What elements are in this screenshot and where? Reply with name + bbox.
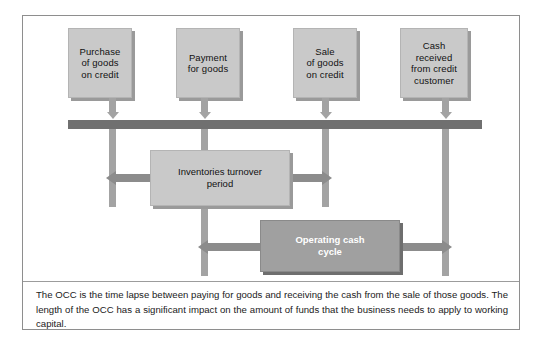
timeline-bar bbox=[68, 120, 482, 129]
down-arrow-shaft-sale bbox=[322, 98, 329, 113]
span-arrow-head-left-occ bbox=[198, 240, 208, 254]
event-box-cash-received: Cashreceivedfrom creditcustomer bbox=[400, 28, 468, 98]
down-arrow-head-sale bbox=[320, 112, 332, 119]
event-box-sale: Saleof goodson credit bbox=[293, 28, 357, 98]
down-arrow-head-payment bbox=[199, 112, 211, 119]
event-box-sale-label: Saleof goodson credit bbox=[303, 46, 346, 81]
figure-caption: The OCC is the time lapse between paying… bbox=[36, 288, 508, 332]
down-arrow-head-purchase bbox=[107, 112, 119, 119]
span-arrow-head-left-inventories bbox=[106, 171, 116, 185]
figure-root: Purchaseof goodson credit Paymentfor goo… bbox=[0, 0, 543, 339]
event-box-payment-label: Paymentfor goods bbox=[185, 52, 232, 75]
event-box-purchase-label: Purchaseof goodson credit bbox=[77, 46, 124, 81]
connector-line-cash-received bbox=[442, 129, 449, 276]
period-box-operating-cash-cycle-label: Operating cashcycle bbox=[295, 234, 364, 259]
event-box-cash-received-label: Cashreceivedfrom creditcustomer bbox=[408, 40, 460, 86]
period-box-operating-cash-cycle: Operating cashcycle bbox=[260, 220, 400, 272]
period-box-inventories-turnover: Inventories turnoverperiod bbox=[150, 150, 290, 206]
connector-line-purchase bbox=[109, 129, 116, 207]
down-arrow-head-cash-received bbox=[440, 112, 452, 119]
caption-separator bbox=[23, 281, 519, 282]
event-box-payment: Paymentfor goods bbox=[176, 28, 240, 98]
period-box-inventories-turnover-label: Inventories turnoverperiod bbox=[178, 166, 262, 191]
span-arrow-head-right-inventories bbox=[322, 171, 332, 185]
event-box-purchase: Purchaseof goodson credit bbox=[68, 28, 132, 98]
down-arrow-shaft-payment bbox=[201, 98, 208, 113]
span-arrow-head-right-occ bbox=[442, 240, 452, 254]
connector-line-sale bbox=[322, 129, 329, 207]
down-arrow-shaft-purchase bbox=[109, 98, 116, 113]
down-arrow-shaft-cash-received bbox=[442, 98, 449, 113]
